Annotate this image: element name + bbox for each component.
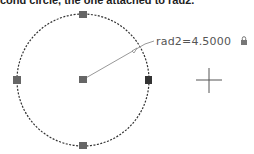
grip-center[interactable]: [79, 76, 87, 83]
leader-extension: [145, 41, 154, 44]
drawing-canvas[interactable]: [0, 0, 254, 154]
grip-bottom[interactable]: [79, 142, 87, 149]
grip-left[interactable]: [13, 76, 21, 84]
arrowhead-icon: [132, 48, 137, 53]
grip-top[interactable]: [79, 11, 87, 18]
dimension-label[interactable]: rad2=4.5000: [156, 35, 231, 48]
crosshair-cursor-icon: [196, 68, 222, 93]
grip-right[interactable]: [145, 76, 152, 84]
lock-icon: [241, 37, 247, 45]
